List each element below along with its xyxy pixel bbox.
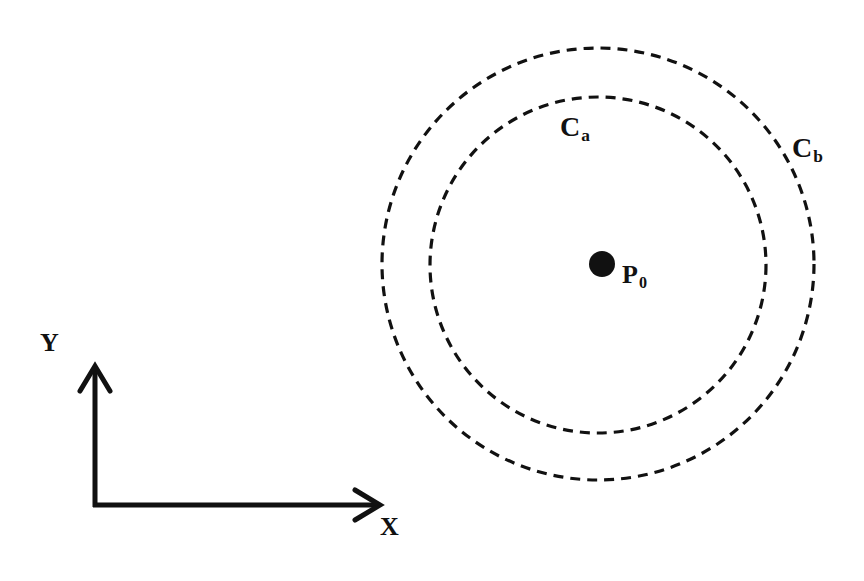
y-axis-label: Y: [40, 330, 59, 356]
circle-cb-label: Cb: [792, 134, 823, 162]
circle-ca-label-subscript: a: [581, 126, 590, 145]
circle-cb-label-main: C: [792, 132, 812, 163]
x-axis-arrow-icon: [93, 490, 380, 520]
point-p0-dot: [589, 251, 615, 277]
x-axis-label: X: [380, 514, 399, 540]
circle-ca-label: Ca: [560, 113, 590, 141]
circle-cb-label-subscript: b: [813, 147, 823, 166]
point-p0-label-subscript: 0: [639, 274, 647, 291]
diagram-canvas: [0, 0, 864, 581]
y-axis-arrow-icon: [80, 366, 110, 507]
circle-ca-label-main: C: [560, 111, 580, 142]
point-p0-label-main: P: [622, 260, 638, 289]
point-p0-label: P0: [622, 262, 647, 288]
